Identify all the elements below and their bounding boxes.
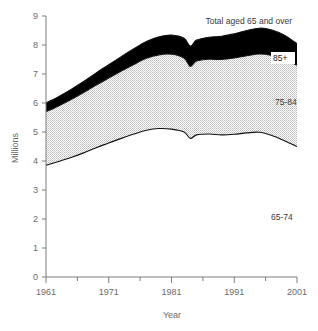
y-axis-tick-labels: 0123456789	[33, 11, 38, 282]
age-structure-area-chart: 0123456789 19611971198119912001 Millions…	[0, 0, 318, 331]
chart-canvas: 0123456789 19611971198119912001 Millions…	[0, 0, 318, 331]
y-tick-label-7: 7	[33, 69, 38, 79]
x-tick-label-1981: 1981	[161, 287, 181, 297]
y-tick-label-3: 3	[33, 185, 38, 195]
x-tick-label-1961: 1961	[36, 287, 56, 297]
y-tick-label-8: 8	[33, 40, 38, 50]
y-tick-label-4: 4	[33, 156, 38, 166]
x-axis-ticks	[46, 277, 297, 283]
x-tick-label-1991: 1991	[224, 287, 244, 297]
plot-area	[46, 28, 297, 277]
annotation-band-65-74: 65-74	[271, 212, 293, 222]
y-tick-label-0: 0	[33, 272, 38, 282]
x-axis-title: Year	[163, 310, 181, 320]
annotation-band-75-84: 75-84	[275, 97, 297, 107]
y-axis-ticks	[42, 16, 46, 277]
y-tick-label-5: 5	[33, 127, 38, 137]
y-tick-label-1: 1	[33, 243, 38, 253]
y-tick-label-6: 6	[33, 98, 38, 108]
x-tick-label-2001: 2001	[287, 287, 307, 297]
x-tick-label-1971: 1971	[99, 287, 119, 297]
annotation-band-85plus: 85+	[273, 53, 287, 63]
y-tick-label-9: 9	[33, 11, 38, 21]
y-axis-title: Millions	[10, 133, 20, 164]
x-axis-tick-labels: 19611971198119912001	[36, 287, 307, 297]
annotation-total-aged-65-and-over: Total aged 65 and over	[206, 16, 293, 26]
annotation-85plus-group: 85+	[271, 52, 295, 64]
y-tick-label-2: 2	[33, 214, 38, 224]
